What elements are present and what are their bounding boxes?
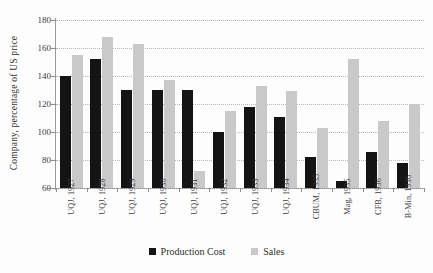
x-tick-mark (332, 188, 333, 192)
y-tick-mark (51, 76, 56, 77)
bar-group (271, 20, 302, 188)
x-tick-mark (179, 188, 180, 192)
x-tick-mark (393, 188, 394, 192)
x-tick-label: CFB, 1936 (363, 192, 394, 238)
bar-sales (286, 91, 297, 188)
x-tick-label: UQJ, 1927 (56, 192, 87, 238)
y-axis-tick-labels: 6080100120140160180 (18, 20, 51, 188)
x-tick-label-text: UQJ, 1931 (189, 178, 198, 214)
bar-production-cost (60, 76, 71, 188)
x-tick-label: UQJ, 1933 (240, 192, 271, 238)
legend-item-production-cost: Production Cost (149, 246, 226, 257)
x-tick-mark (56, 188, 57, 192)
bar-sales (225, 111, 236, 188)
bar-sales (256, 86, 267, 188)
x-tick-mark (301, 188, 302, 192)
bar-group (240, 20, 271, 188)
x-tick-label-text: UQJ, 1933 (251, 178, 260, 214)
x-tick-label-text: UQJ, 1932 (220, 178, 229, 214)
chart-legend: Production Cost Sales (0, 246, 433, 257)
x-tick-label: UQJ, 1932 (209, 192, 240, 238)
x-tick-mark (148, 188, 149, 192)
bar-group (332, 20, 363, 188)
x-axis-tick-labels: UQJ, 1927UQJ, 1928UQJ, 1929UQJ, 1930UQJ,… (56, 192, 424, 238)
bar-production-cost (90, 59, 101, 188)
y-tick-label: 80 (25, 155, 51, 165)
bar-group (363, 20, 394, 188)
legend-label-sales: Sales (263, 246, 284, 257)
x-tick-label: UQJ, 1930 (148, 192, 179, 238)
legend-item-sales: Sales (251, 246, 284, 257)
bar-group (393, 20, 424, 188)
bar-group (148, 20, 179, 188)
bar-sales (72, 55, 83, 188)
bar-group (117, 20, 148, 188)
y-tick-label: 180 (25, 15, 51, 25)
bar-production-cost (244, 107, 255, 188)
bar-production-cost (152, 90, 163, 188)
bar-group (209, 20, 240, 188)
x-tick-label-text: CBUM, 1935 (312, 174, 321, 220)
x-tick-mark (117, 188, 118, 192)
y-tick-mark (51, 132, 56, 133)
x-tick-mark (424, 188, 425, 192)
y-tick-label: 140 (25, 71, 51, 81)
x-tick-label-text: UQJ, 1934 (281, 178, 290, 214)
x-tick-label-text: B-Min, 1936 (404, 175, 413, 218)
x-tick-label-text: UQJ, 1927 (67, 178, 76, 214)
plot-bars (56, 20, 424, 188)
bar-sales (164, 80, 175, 188)
y-tick-mark (51, 48, 56, 49)
bar-sales (348, 59, 359, 188)
bar-sales (133, 44, 144, 188)
x-tick-label-text: UQJ, 1930 (159, 178, 168, 214)
x-tick-label: Mag, 1935 (332, 192, 363, 238)
x-tick-mark (240, 188, 241, 192)
x-tick-label: CBUM, 1935 (301, 192, 332, 238)
y-tick-mark (51, 20, 56, 21)
bar-group (56, 20, 87, 188)
bar-sales (102, 37, 113, 188)
y-tick-label: 100 (25, 127, 51, 137)
bar-group (179, 20, 210, 188)
y-tick-mark (51, 160, 56, 161)
x-tick-mark (363, 188, 364, 192)
legend-swatch-production-cost (149, 248, 156, 255)
x-tick-label: UQJ, 1928 (87, 192, 118, 238)
x-tick-label: UQJ, 1934 (271, 192, 302, 238)
bar-production-cost (274, 117, 285, 188)
bar-group (87, 20, 118, 188)
x-tick-label-text: CFB, 1936 (373, 178, 382, 215)
x-tick-label-text: UQJ, 1928 (97, 178, 106, 214)
y-tick-label: 160 (25, 43, 51, 53)
bar-group (301, 20, 332, 188)
bar-production-cost (182, 90, 193, 188)
legend-swatch-sales (251, 248, 258, 255)
x-tick-label: UQJ, 1929 (117, 192, 148, 238)
legend-label-production-cost: Production Cost (161, 246, 226, 257)
x-tick-mark (209, 188, 210, 192)
x-tick-label-text: Mag, 1935 (343, 178, 352, 214)
y-tick-mark (51, 104, 56, 105)
x-tick-label: UQJ, 1931 (179, 192, 210, 238)
x-tick-label: B-Min, 1936 (393, 192, 424, 238)
bar-production-cost (121, 90, 132, 188)
x-tick-label-text: UQJ, 1929 (128, 178, 137, 214)
y-tick-label: 120 (25, 99, 51, 109)
x-tick-mark (87, 188, 88, 192)
bar-chart: Company, percentage of US price 60801001… (0, 0, 433, 273)
x-tick-mark (271, 188, 272, 192)
